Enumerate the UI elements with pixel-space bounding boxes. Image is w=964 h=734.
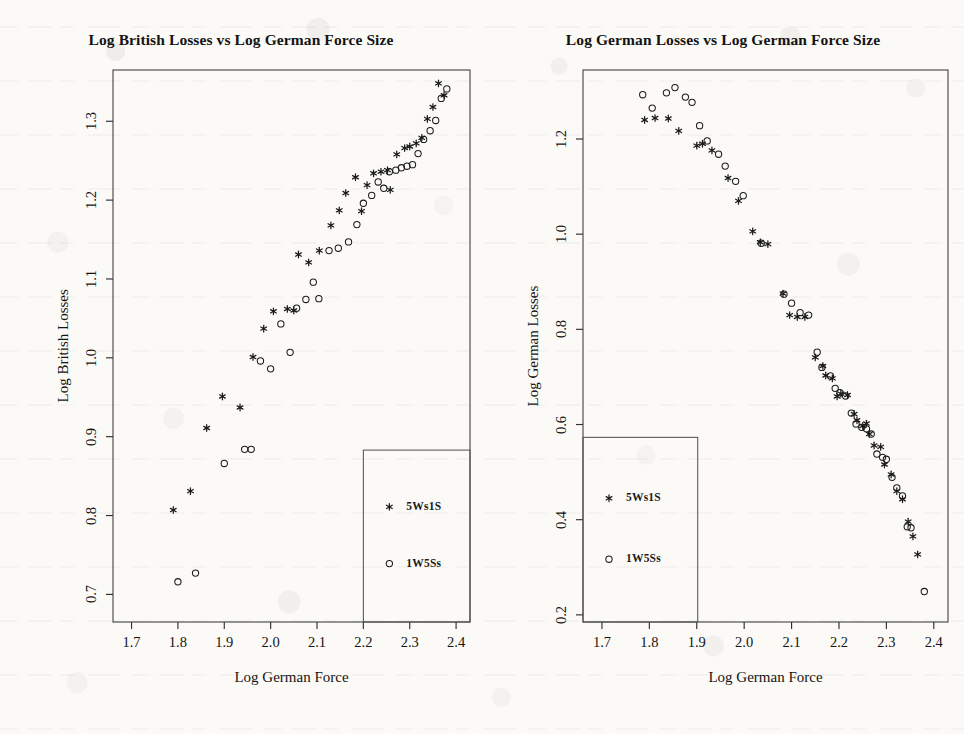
marker-asterisk bbox=[413, 140, 419, 147]
marker-asterisk bbox=[419, 135, 425, 142]
marker-asterisk bbox=[220, 393, 226, 400]
y-tick-label: 0.4 bbox=[553, 498, 570, 542]
legend-box bbox=[583, 437, 698, 622]
y-tick-label: 1.1 bbox=[83, 257, 100, 301]
marker-asterisk bbox=[430, 104, 436, 111]
marker-open-circle bbox=[433, 117, 439, 123]
plot-frame bbox=[113, 70, 470, 622]
marker-asterisk bbox=[736, 198, 742, 205]
x-tick-label: 2.0 bbox=[722, 634, 766, 651]
marker-asterisk bbox=[387, 187, 393, 194]
marker-open-circle bbox=[649, 105, 655, 111]
y-tick-label: 1.2 bbox=[553, 117, 570, 161]
marker-open-circle bbox=[409, 161, 415, 167]
marker-open-circle bbox=[908, 525, 914, 531]
x-tick-label: 2.2 bbox=[817, 634, 861, 651]
marker-open-circle bbox=[360, 200, 366, 206]
y-tick-label: 1.0 bbox=[553, 212, 570, 256]
x-tick-label: 2.1 bbox=[770, 634, 814, 651]
marker-open-circle bbox=[221, 460, 227, 466]
marker-asterisk bbox=[642, 117, 648, 124]
marker-open-circle bbox=[814, 349, 820, 355]
y-tick-label: 1.2 bbox=[83, 178, 100, 222]
y-tick-label: 0.2 bbox=[553, 593, 570, 637]
x-tick-label: 1.8 bbox=[156, 634, 200, 651]
series-1W5Ss bbox=[640, 84, 928, 594]
x-tick-label: 2.4 bbox=[912, 634, 956, 651]
marker-asterisk bbox=[188, 488, 194, 495]
x-axis-title: Log German Force bbox=[583, 669, 948, 686]
x-axis-title: Log German Force bbox=[113, 669, 470, 686]
plot-frame bbox=[583, 70, 948, 622]
marker-open-circle bbox=[335, 245, 341, 251]
panel-left-british-losses: Log British Losses vs Log German Force S… bbox=[0, 0, 482, 734]
marker-open-circle bbox=[805, 312, 811, 318]
figure-two-panel-scatter: Log British Losses vs Log German Force S… bbox=[0, 0, 964, 734]
panel-right-german-losses: Log German Losses vs Log German Force Si… bbox=[482, 0, 964, 734]
y-tick-label: 1.0 bbox=[83, 336, 100, 380]
marker-open-circle bbox=[242, 446, 248, 452]
x-tick-label: 1.9 bbox=[675, 634, 719, 651]
y-tick-label: 0.8 bbox=[553, 307, 570, 351]
marker-asterisk bbox=[306, 259, 312, 266]
marker-asterisk bbox=[284, 306, 290, 313]
legend-marker-1w5ss[interactable] bbox=[606, 556, 612, 562]
x-tick-label: 2.4 bbox=[434, 634, 478, 651]
x-tick-label: 1.7 bbox=[580, 634, 624, 651]
x-tick-label: 1.7 bbox=[110, 634, 154, 651]
marker-open-circle bbox=[663, 90, 669, 96]
marker-open-circle bbox=[740, 192, 746, 198]
legend-marker-5ws1s[interactable] bbox=[387, 504, 393, 511]
marker-asterisk bbox=[424, 116, 430, 123]
marker-asterisk bbox=[871, 442, 877, 449]
marker-asterisk bbox=[336, 207, 342, 214]
marker-open-circle bbox=[704, 138, 710, 144]
legend-marker-1w5ss[interactable] bbox=[386, 560, 392, 566]
marker-open-circle bbox=[369, 192, 375, 198]
marker-asterisk bbox=[750, 228, 756, 235]
marker-asterisk bbox=[296, 251, 302, 258]
marker-asterisk bbox=[378, 168, 384, 175]
marker-asterisk bbox=[364, 182, 370, 189]
marker-asterisk bbox=[436, 80, 442, 87]
marker-open-circle bbox=[375, 179, 381, 185]
y-tick-label: 0.9 bbox=[83, 415, 100, 459]
marker-open-circle bbox=[640, 92, 646, 98]
marker-open-circle bbox=[722, 163, 728, 169]
marker-open-circle bbox=[257, 358, 263, 364]
marker-asterisk bbox=[725, 175, 731, 182]
marker-asterisk bbox=[328, 222, 334, 229]
x-tick-label: 2.0 bbox=[249, 634, 293, 651]
x-tick-label: 2.3 bbox=[388, 634, 432, 651]
marker-open-circle bbox=[427, 128, 433, 134]
legend-label-1w5ss: 1W5Ss bbox=[406, 557, 441, 569]
legend-label-5ws1s: 5Ws1S bbox=[406, 500, 441, 512]
marker-asterisk bbox=[353, 174, 359, 181]
marker-open-circle bbox=[788, 300, 794, 306]
marker-asterisk bbox=[271, 308, 277, 315]
marker-asterisk bbox=[371, 170, 377, 177]
marker-asterisk bbox=[606, 495, 612, 502]
marker-open-circle bbox=[310, 279, 316, 285]
marker-open-circle bbox=[192, 570, 198, 576]
marker-asterisk bbox=[204, 425, 210, 432]
marker-asterisk bbox=[676, 128, 682, 135]
marker-asterisk bbox=[709, 147, 715, 154]
legend-label-1w5ss: 1W5Ss bbox=[626, 552, 661, 564]
marker-open-circle bbox=[715, 151, 721, 157]
marker-open-circle bbox=[248, 446, 254, 452]
marker-asterisk bbox=[394, 151, 400, 158]
marker-asterisk bbox=[343, 190, 349, 197]
x-tick-label: 1.8 bbox=[627, 634, 671, 651]
marker-asterisk bbox=[878, 444, 884, 451]
marker-open-circle bbox=[278, 321, 284, 327]
marker-open-circle bbox=[879, 454, 885, 460]
marker-open-circle bbox=[415, 150, 421, 156]
legend-marker-5ws1s[interactable] bbox=[606, 495, 612, 502]
marker-open-circle bbox=[682, 94, 688, 100]
marker-asterisk bbox=[385, 167, 391, 174]
marker-asterisk bbox=[665, 115, 671, 122]
marker-open-circle bbox=[303, 296, 309, 302]
marker-open-circle bbox=[267, 366, 273, 372]
panel-left-plot-area bbox=[0, 0, 482, 734]
